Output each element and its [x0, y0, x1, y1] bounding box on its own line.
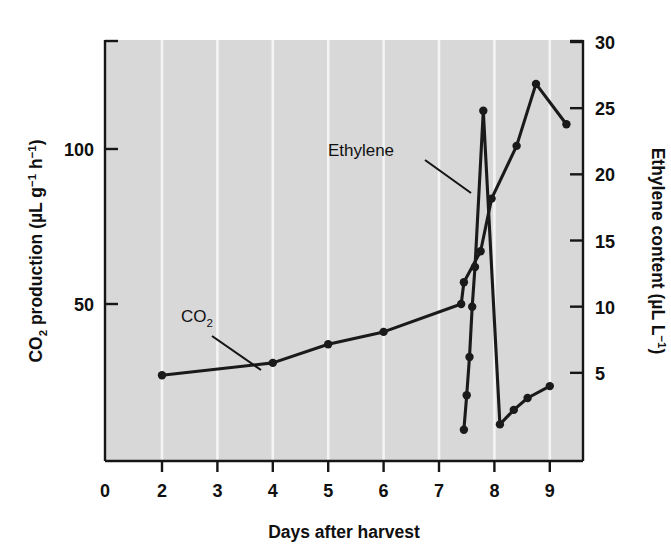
y-tick-label-right: 10 — [595, 298, 615, 318]
data-point — [158, 371, 166, 379]
data-point — [465, 353, 473, 361]
x-tick-label: 4 — [268, 481, 278, 501]
data-point — [546, 382, 554, 390]
x-tick-label: 7 — [434, 481, 444, 501]
data-point — [324, 340, 332, 348]
chart-figure: 023456789 50100 51015202530 CO2 Ethylene… — [0, 0, 671, 554]
data-point — [476, 247, 484, 255]
x-tick-label: 6 — [379, 481, 389, 501]
data-point — [269, 359, 277, 367]
x-tick-label: 9 — [545, 481, 555, 501]
x-axis-tick-labels: 023456789 — [100, 481, 555, 501]
data-point — [532, 80, 540, 88]
y-axis-right-tick-labels: 51015202530 — [595, 33, 615, 384]
data-point — [457, 300, 465, 308]
x-axis-ticks — [162, 461, 550, 472]
data-point — [512, 142, 520, 150]
x-tick-label: 0 — [100, 481, 110, 501]
chart-svg: 023456789 50100 51015202530 CO2 Ethylene… — [0, 0, 671, 554]
y-tick-label-right: 20 — [595, 165, 615, 185]
x-tick-label: 2 — [157, 481, 167, 501]
plot-background — [105, 40, 583, 461]
data-point — [468, 303, 476, 311]
x-tick-label: 3 — [212, 481, 222, 501]
data-point — [463, 391, 471, 399]
y-tick-label-right: 15 — [595, 232, 615, 252]
x-tick-label: 8 — [489, 481, 499, 501]
ethylene-callout-label: Ethylene — [328, 141, 394, 160]
data-point — [523, 394, 531, 402]
y-tick-label-right: 30 — [595, 33, 615, 53]
x-tick-label: 5 — [323, 481, 333, 501]
data-point — [471, 263, 479, 271]
y-axis-right-title: Ethylene content (µL L−1) — [648, 148, 668, 355]
y-axis-left-title: CO2 production (µL g−1 h−1) — [26, 139, 49, 362]
y-axis-left-tick-labels: 50100 — [64, 140, 94, 315]
data-point — [460, 426, 468, 434]
y-tick-label-right: 25 — [595, 99, 615, 119]
data-point — [510, 406, 518, 414]
data-point — [460, 278, 468, 286]
data-point — [496, 420, 504, 428]
y-tick-label-right: 5 — [595, 364, 605, 384]
y-tick-label-left: 100 — [64, 140, 94, 160]
data-point — [379, 328, 387, 336]
data-point — [479, 107, 487, 115]
y-tick-label-left: 50 — [74, 295, 94, 315]
x-axis-title: Days after harvest — [268, 522, 420, 542]
data-point — [562, 120, 570, 128]
